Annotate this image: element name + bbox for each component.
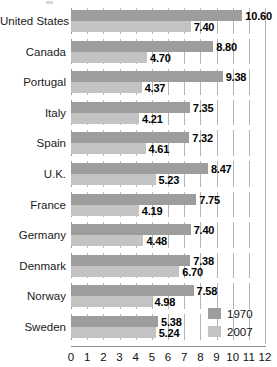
bar: [71, 194, 196, 205]
chart-legend: 1970 2007: [208, 306, 270, 342]
row-gap: [71, 95, 265, 100]
row-gap: [71, 34, 265, 39]
bar: [71, 113, 139, 124]
category-label: Denmark: [0, 260, 66, 272]
x-axis-tick-labels: 0123456789101112: [0, 350, 277, 366]
bar-value-label: 4.48: [146, 236, 167, 247]
tick-label: 2: [100, 350, 106, 364]
bar-value-label: 7.58: [197, 286, 218, 297]
bar-value-label: 4.21: [142, 114, 163, 125]
category-label: Spain: [0, 137, 66, 149]
bar-value-label: 10.60: [245, 11, 272, 22]
gridline: [249, 8, 250, 344]
bar: [71, 224, 191, 235]
tick-label: 9: [213, 350, 219, 364]
tick-label: 4: [132, 350, 138, 364]
legend-swatch-2007: [208, 326, 221, 337]
category-label: Norway: [0, 290, 66, 302]
bar-value-label: 7.40: [194, 22, 215, 33]
gridline: [265, 8, 266, 344]
bar: [71, 71, 223, 82]
bar: [71, 52, 147, 63]
row-gap: [71, 125, 265, 130]
category-label: Canada: [0, 46, 66, 58]
row-gap: [71, 278, 265, 283]
bar: [71, 102, 190, 113]
tick-label: 5: [149, 350, 155, 364]
bar-value-label: 4.61: [149, 144, 170, 155]
category-label: U.K.: [0, 168, 66, 180]
bar-value-label: 8.80: [216, 42, 237, 53]
bar: [71, 285, 194, 296]
bar-value-label: 4.19: [142, 206, 163, 217]
cropped-title-artifact: [46, 1, 53, 4]
tick-label: 11: [243, 350, 255, 364]
bar: [71, 82, 142, 93]
bar-value-label: 4.37: [145, 83, 166, 94]
bar-value-label: 8.47: [211, 164, 232, 175]
legend-item-1970: 1970: [208, 306, 270, 321]
bar: [71, 235, 143, 246]
horizontal-bar-chart: 10.607.408.804.709.384.377.354.217.324.6…: [0, 0, 277, 367]
bar-value-label: 9.38: [226, 72, 247, 83]
category-label: Sweden: [0, 321, 66, 333]
bar-value-label: 7.35: [193, 103, 214, 114]
bar: [71, 163, 208, 174]
bar: [71, 21, 191, 32]
category-label: United States: [0, 15, 66, 27]
bar: [71, 327, 156, 338]
bar-value-label: 7.32: [192, 133, 213, 144]
category-label: France: [0, 199, 66, 211]
bar: [71, 143, 146, 154]
bar: [71, 10, 242, 21]
row-gap: [71, 187, 265, 192]
legend-item-2007: 2007: [208, 324, 270, 339]
category-label: Italy: [0, 107, 66, 119]
tick-label: 1: [84, 350, 90, 364]
tick-label: 6: [165, 350, 171, 364]
bar: [71, 266, 179, 277]
bar: [71, 205, 139, 216]
bar-value-label: 5.24: [159, 328, 180, 339]
bar-value-label: 7.75: [199, 195, 220, 206]
tick-label: 8: [197, 350, 203, 364]
bar-value-label: 6.70: [182, 267, 203, 278]
row-gap: [71, 248, 265, 253]
x-axis-line: [71, 346, 266, 347]
tick-label: 0: [68, 350, 74, 364]
legend-label-1970: 1970: [227, 308, 253, 320]
gridline: [233, 8, 234, 344]
bar: [71, 255, 190, 266]
tick-label: 12: [259, 350, 272, 364]
bar: [71, 41, 213, 52]
row-gap: [71, 156, 265, 161]
bar: [71, 296, 152, 307]
bar: [71, 132, 189, 143]
row-gap: [71, 64, 265, 69]
bar-value-label: 5.23: [159, 175, 180, 186]
bar: [71, 174, 156, 185]
bar: [71, 316, 158, 327]
tick-label: 7: [181, 350, 187, 364]
bar-value-label: 7.40: [194, 225, 215, 236]
legend-label-2007: 2007: [227, 326, 253, 338]
bar-value-label: 4.98: [155, 297, 176, 308]
category-label: Portugal: [0, 76, 66, 88]
category-label: Germany: [0, 229, 66, 241]
legend-swatch-1970: [208, 308, 221, 319]
row-gap: [71, 217, 265, 222]
plot-area: 10.607.408.804.709.384.377.354.217.324.6…: [71, 8, 265, 346]
bar-value-label: 4.70: [150, 53, 171, 64]
tick-label: 10: [226, 350, 239, 364]
tick-label: 3: [116, 350, 122, 364]
